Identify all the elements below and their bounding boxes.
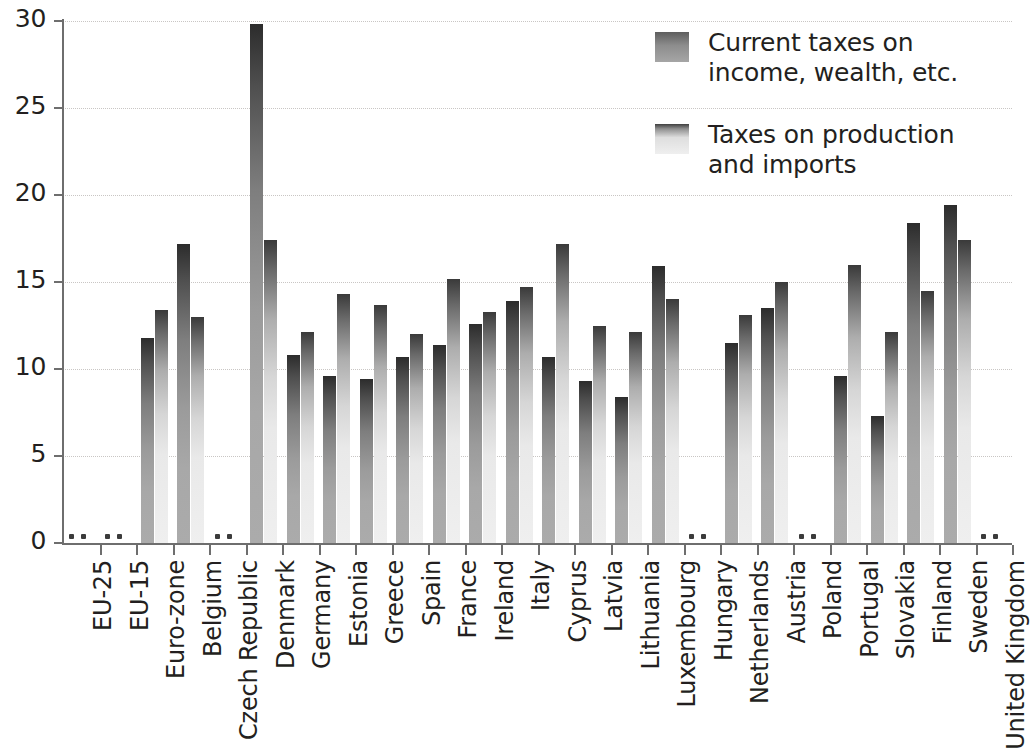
x-axis-tick-mark xyxy=(246,545,248,555)
bar xyxy=(615,397,628,543)
x-axis-tick-mark xyxy=(173,545,175,555)
bar xyxy=(775,282,788,543)
x-axis-category-label: Italy xyxy=(529,560,553,611)
x-axis-tick-mark xyxy=(684,545,686,555)
missing-data-marker xyxy=(69,534,86,539)
x-axis-category-label: Sweden xyxy=(967,560,991,654)
x-axis-category-label: France xyxy=(456,560,480,639)
bar xyxy=(542,357,555,543)
bar xyxy=(725,343,738,543)
bar xyxy=(593,326,606,544)
bar xyxy=(921,291,934,543)
y-axis-tick-label: 20 xyxy=(0,180,46,205)
x-axis-category-label: EU-25 xyxy=(91,560,115,631)
x-axis-tick-mark xyxy=(866,545,868,555)
missing-data-marker xyxy=(981,534,998,539)
x-axis-tick-mark xyxy=(611,545,613,555)
x-axis-tick-mark xyxy=(100,545,102,555)
bar xyxy=(871,416,884,543)
legend-label-production-taxes: Taxes on production and imports xyxy=(708,120,985,180)
x-axis-category-label: Estonia xyxy=(347,560,371,647)
bar xyxy=(360,379,373,543)
x-axis-category-label: Luxembourg xyxy=(675,560,699,708)
x-axis-tick-mark xyxy=(282,545,284,555)
x-axis-category-label: EU-15 xyxy=(128,560,152,631)
missing-data-marker xyxy=(105,534,122,539)
x-axis-tick-mark xyxy=(1012,545,1014,555)
chart-legend: Current taxes on income, wealth, etc. Ta… xyxy=(655,28,985,212)
bar xyxy=(155,310,168,543)
bar xyxy=(410,334,423,543)
bar xyxy=(337,294,350,543)
x-axis-tick-mark xyxy=(392,545,394,555)
missing-data-marker xyxy=(215,534,232,539)
x-axis-category-label: Poland xyxy=(821,560,845,639)
bar xyxy=(483,312,496,543)
x-axis-tick-mark xyxy=(574,545,576,555)
x-axis-tick-mark xyxy=(355,545,357,555)
x-axis-tick-mark xyxy=(647,545,649,555)
bar xyxy=(264,240,277,543)
bar xyxy=(958,240,971,543)
bar xyxy=(834,376,847,543)
bar xyxy=(629,332,642,543)
bar xyxy=(761,308,774,543)
bar xyxy=(556,244,569,543)
y-axis-tick-label: 0 xyxy=(0,528,46,553)
legend-item-production-taxes: Taxes on production and imports xyxy=(655,120,985,180)
x-axis-tick-mark xyxy=(501,545,503,555)
bar xyxy=(374,305,387,543)
x-axis-category-label: Czech Republic xyxy=(237,560,261,740)
x-axis-tick-mark xyxy=(939,545,941,555)
x-axis-tick-mark xyxy=(538,545,540,555)
bar xyxy=(396,357,409,543)
x-axis-tick-mark xyxy=(830,545,832,555)
y-axis-tick-label: 15 xyxy=(0,267,46,292)
x-axis-category-label: Hungary xyxy=(712,560,736,661)
x-axis-category-label: Portugal xyxy=(858,560,882,658)
x-axis-category-label: Ireland xyxy=(493,560,517,642)
x-axis-category-label: Belgium xyxy=(201,560,225,657)
x-axis-category-label: Greece xyxy=(383,560,407,644)
x-axis-tick-mark xyxy=(209,545,211,555)
bar xyxy=(739,315,752,543)
x-axis-tick-mark xyxy=(757,545,759,555)
x-axis-tick-mark xyxy=(720,545,722,555)
bar xyxy=(652,266,665,543)
bar xyxy=(907,223,920,543)
legend-item-current-taxes: Current taxes on income, wealth, etc. xyxy=(655,28,985,88)
bar xyxy=(191,317,204,543)
x-axis-tick-mark xyxy=(793,545,795,555)
x-axis-tick-mark xyxy=(903,545,905,555)
bar xyxy=(287,355,300,543)
y-axis-tick-label: 30 xyxy=(0,6,46,31)
x-axis-category-label: Lithuania xyxy=(639,560,663,669)
bar xyxy=(944,205,957,543)
x-axis-category-label: Euro-zone xyxy=(164,560,188,679)
x-axis-tick-mark xyxy=(319,545,321,555)
y-axis-tick-label: 25 xyxy=(0,93,46,118)
bar xyxy=(250,24,263,543)
x-axis-tick-mark xyxy=(976,545,978,555)
x-axis-category-label: Slovakia xyxy=(894,560,918,659)
missing-data-marker xyxy=(799,534,816,539)
x-axis-category-label: Cyprus xyxy=(566,560,590,643)
bar xyxy=(469,324,482,543)
x-axis-category-label: Denmark xyxy=(274,560,298,669)
bar xyxy=(301,332,314,543)
missing-data-marker xyxy=(689,534,706,539)
x-axis-category-label: Germany xyxy=(310,560,334,669)
bar xyxy=(323,376,336,543)
x-axis-category-label: Spain xyxy=(420,560,444,626)
bar xyxy=(666,299,679,543)
bar xyxy=(433,345,446,543)
bar xyxy=(848,265,861,543)
legend-swatch-icon-current-taxes xyxy=(655,32,689,62)
legend-swatch-icon-production-taxes xyxy=(655,124,689,154)
x-axis-category-label: Austria xyxy=(785,560,809,643)
x-axis-category-label: Latvia xyxy=(602,560,626,632)
x-axis-tick-mark xyxy=(465,545,467,555)
bar xyxy=(579,381,592,543)
bar xyxy=(885,332,898,543)
